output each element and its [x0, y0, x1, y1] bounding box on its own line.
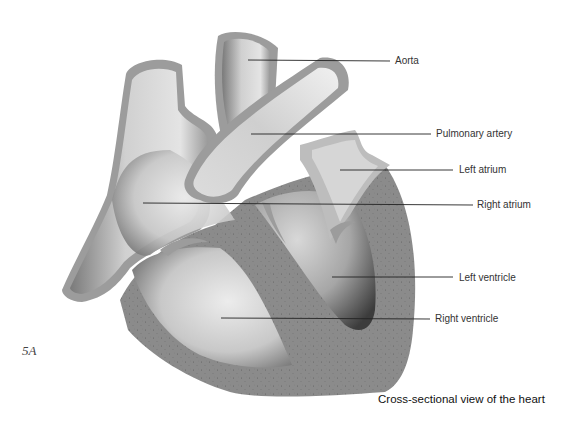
- heart-illustration: [0, 0, 584, 428]
- figure-caption: Cross-sectional view of the heart: [378, 393, 545, 405]
- label-right-ventricle: Right ventricle: [435, 313, 498, 325]
- label-right-atrium: Right atrium: [477, 199, 531, 211]
- label-aorta: Aorta: [395, 55, 419, 67]
- figure-number: 5A: [22, 343, 36, 359]
- label-pulmonary-artery: Pulmonary artery: [436, 128, 512, 140]
- heart-diagram: Aorta Pulmonary artery Left atrium Right…: [0, 0, 584, 428]
- label-left-atrium: Left atrium: [459, 164, 506, 176]
- label-left-ventricle: Left ventricle: [459, 272, 516, 284]
